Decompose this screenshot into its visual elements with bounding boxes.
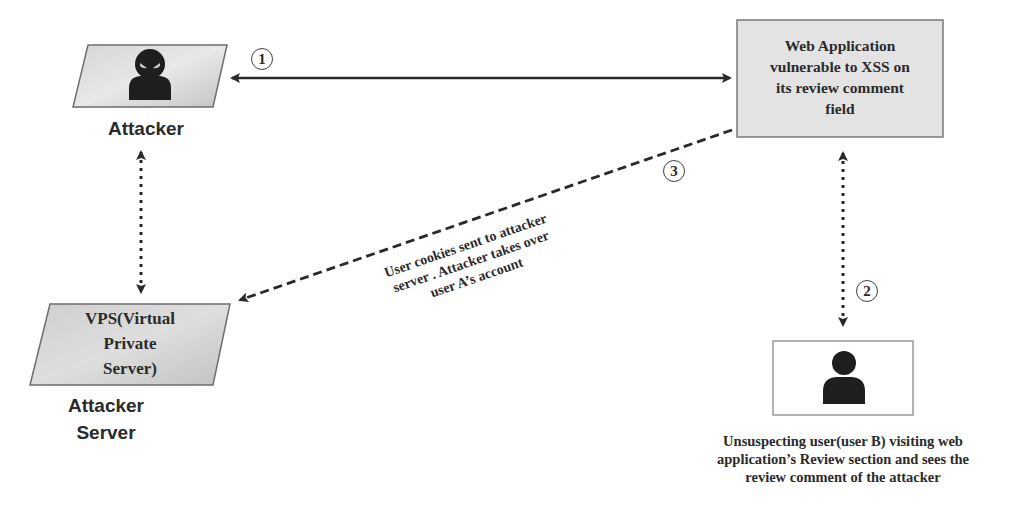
attacker-label-text: Attacker: [108, 118, 184, 139]
step-3-badge: 3: [663, 160, 685, 182]
victim-caption-line-3: review comment of the attacker: [648, 468, 1018, 486]
victim-node: [773, 341, 913, 415]
step-1-badge: 1: [251, 48, 273, 70]
vps-box-text: VPS(Virtual Private Server): [40, 306, 220, 381]
attacker-server-label: Attacker Server: [46, 392, 166, 446]
attacker-server-line-2: Server: [46, 419, 166, 446]
web-app-line-1: Web Application: [737, 35, 943, 56]
attacker-node: [73, 45, 227, 107]
xss-attack-diagram: 1 2 3 Attacker VPS(Virtual Private Serve…: [0, 0, 1018, 514]
victim-caption-line-1: Unsuspecting user(user B) visiting web: [648, 432, 1018, 450]
victim-caption-line-2: application’s Review section and sees th…: [648, 450, 1018, 468]
attacker-server-line-1: Attacker: [46, 392, 166, 419]
web-app-box-text: Web Application vulnerable to XSS on its…: [737, 35, 943, 119]
step-2-badge: 2: [856, 280, 878, 302]
vps-line-3: Server): [40, 356, 220, 381]
attacker-label: Attacker: [86, 115, 206, 142]
vps-line-1: VPS(Virtual: [40, 306, 220, 331]
web-app-line-3: its review comment: [737, 77, 943, 98]
vps-line-2: Private: [40, 331, 220, 356]
victim-caption: Unsuspecting user(user B) visiting web a…: [648, 432, 1018, 486]
web-app-line-4: field: [737, 98, 943, 119]
web-app-line-2: vulnerable to XSS on: [737, 56, 943, 77]
